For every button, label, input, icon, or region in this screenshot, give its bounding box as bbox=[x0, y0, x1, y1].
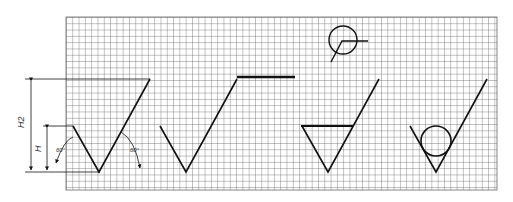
label-angle-right: 60° bbox=[130, 147, 140, 153]
label-h2: H2 bbox=[16, 116, 26, 128]
label-angle-left: 60° bbox=[56, 147, 66, 153]
diagram-canvas: H2 H 60° 60° bbox=[0, 0, 513, 202]
label-h: H bbox=[33, 145, 43, 152]
